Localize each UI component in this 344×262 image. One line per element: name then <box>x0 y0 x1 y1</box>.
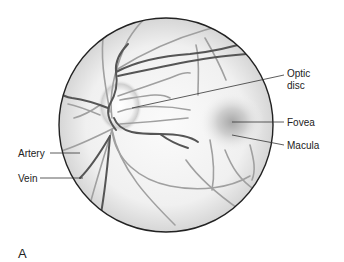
retina-diagram <box>0 0 344 262</box>
panel-label: A <box>18 246 27 261</box>
label-artery: Artery <box>18 148 45 159</box>
label-optic-disc-line2: disc <box>287 80 305 91</box>
label-macula: Macula <box>287 140 319 151</box>
label-fovea: Fovea <box>287 117 315 128</box>
label-vein: Vein <box>18 173 37 184</box>
label-optic-disc-line1: Optic <box>287 68 310 79</box>
